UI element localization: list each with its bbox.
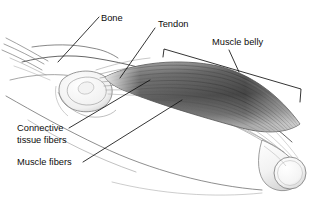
label-muscle-fibers: Muscle fibers xyxy=(17,157,72,167)
bone-shaft xyxy=(2,38,50,80)
muscle-belly-body xyxy=(104,62,302,159)
label-connective-tissue-line2: tissue fibers xyxy=(17,135,67,145)
skeletal-muscle-structure-diagram: Bone Tendon Muscle belly Connective tiss… xyxy=(0,0,321,202)
label-tendon: Tendon xyxy=(158,19,189,29)
leader-bone xyxy=(58,17,99,62)
bone-head-right xyxy=(259,140,306,191)
label-muscle-belly: Muscle belly xyxy=(212,37,264,47)
label-connective-tissue-line1: Connective xyxy=(17,123,64,133)
label-bone: Bone xyxy=(101,13,123,23)
